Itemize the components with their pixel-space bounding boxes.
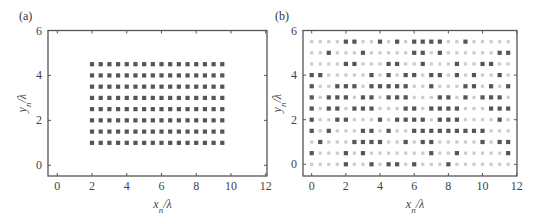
active-element-marker (404, 106, 408, 110)
active-element-marker (369, 95, 373, 99)
active-element-marker (125, 118, 129, 122)
x-tick-label: 2 (343, 179, 349, 193)
active-element-marker (212, 130, 216, 134)
active-element-marker (90, 118, 94, 122)
inactive-element-marker (344, 140, 347, 143)
active-element-marker (455, 129, 459, 133)
inactive-element-marker (396, 140, 399, 143)
inactive-element-marker (472, 107, 475, 110)
active-element-marker (99, 62, 103, 66)
active-element-marker (455, 118, 459, 122)
active-element-marker (90, 96, 94, 100)
active-element-marker (212, 96, 216, 100)
inactive-element-marker (319, 62, 322, 65)
inactive-element-marker (378, 163, 381, 166)
active-element-marker (429, 106, 433, 110)
inactive-element-marker (344, 107, 347, 110)
inactive-element-marker (472, 62, 475, 65)
active-element-marker (142, 85, 146, 89)
inactive-element-marker (361, 62, 364, 65)
inactive-element-marker (421, 163, 424, 166)
active-element-marker (99, 141, 103, 145)
active-element-marker (159, 62, 163, 66)
active-element-marker (480, 140, 484, 144)
active-element-marker (203, 130, 207, 134)
inactive-element-marker (455, 163, 458, 166)
inactive-element-marker (447, 152, 450, 155)
inactive-element-marker (489, 163, 492, 166)
inactive-element-marker (404, 129, 407, 132)
active-element-marker (90, 107, 94, 111)
active-element-marker (107, 85, 111, 89)
inactive-element-marker (336, 40, 339, 43)
inactive-element-marker (387, 118, 390, 121)
active-element-marker (386, 84, 390, 88)
active-element-marker (327, 106, 331, 110)
active-element-marker (489, 62, 493, 66)
y-tick-label: 4 (291, 68, 297, 82)
active-element-marker (168, 96, 172, 100)
active-element-marker (412, 73, 416, 77)
active-element-marker (361, 106, 365, 110)
active-element-marker (185, 85, 189, 89)
active-element-marker (455, 151, 459, 155)
active-element-marker (116, 85, 120, 89)
figure: (a)0246810120246xn/λyn/λ (b)024681012024… (0, 0, 537, 219)
active-element-marker (335, 84, 339, 88)
active-element-marker (310, 129, 314, 133)
inactive-element-marker (472, 118, 475, 121)
active-element-marker (194, 85, 198, 89)
active-element-marker (220, 73, 224, 77)
active-element-marker (386, 73, 390, 77)
inactive-element-marker (370, 118, 373, 121)
inactive-element-marker (378, 74, 381, 77)
active-element-marker (151, 85, 155, 89)
active-element-marker (185, 73, 189, 77)
active-element-marker (344, 62, 348, 66)
x-tick-label: 10 (225, 179, 237, 193)
active-element-marker (203, 118, 207, 122)
active-element-marker (220, 141, 224, 145)
inactive-element-marker (319, 96, 322, 99)
active-element-marker (344, 40, 348, 44)
active-element-marker (159, 118, 163, 122)
inactive-element-marker (336, 129, 339, 132)
array-elements (90, 62, 224, 145)
inactive-element-marker (353, 163, 356, 166)
inactive-element-marker (455, 96, 458, 99)
inactive-element-marker (464, 62, 467, 65)
inactive-element-marker (498, 163, 501, 166)
active-element-marker (446, 129, 450, 133)
x-tick-label: 6 (411, 179, 417, 193)
inactive-element-marker (327, 140, 330, 143)
active-element-marker (421, 40, 425, 44)
active-element-marker (386, 95, 390, 99)
inactive-element-marker (481, 74, 484, 77)
inactive-element-marker (327, 85, 330, 88)
inactive-element-marker (507, 74, 510, 77)
x-tick-label: 8 (193, 179, 199, 193)
inactive-element-marker (421, 107, 424, 110)
active-element-marker (185, 141, 189, 145)
inactive-element-marker (378, 62, 381, 65)
active-element-marker (318, 73, 322, 77)
active-element-marker (168, 107, 172, 111)
active-element-marker (404, 118, 408, 122)
inactive-element-marker (464, 118, 467, 121)
inactive-element-marker (378, 129, 381, 132)
inactive-element-marker (472, 96, 475, 99)
y-tick-label: 4 (36, 68, 42, 82)
active-element-marker (194, 118, 198, 122)
active-element-marker (203, 62, 207, 66)
active-element-marker (438, 118, 442, 122)
active-element-marker (498, 95, 502, 99)
inactive-element-marker (396, 107, 399, 110)
active-element-marker (90, 130, 94, 134)
inactive-element-marker (404, 152, 407, 155)
active-element-marker (142, 130, 146, 134)
inactive-element-marker (387, 51, 390, 54)
active-element-marker (378, 40, 382, 44)
inactive-element-marker (489, 118, 492, 121)
active-element-marker (310, 73, 314, 77)
active-element-marker (361, 140, 365, 144)
